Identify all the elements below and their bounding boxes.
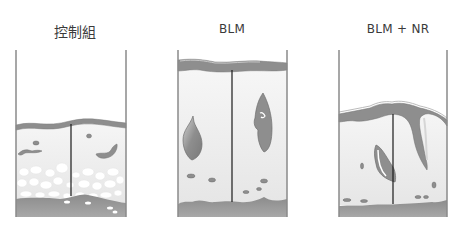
- panel-control: [16, 50, 126, 217]
- panel-blm: [178, 50, 287, 217]
- panel-blm-nr: [339, 50, 447, 217]
- diagram-canvas: [0, 0, 459, 229]
